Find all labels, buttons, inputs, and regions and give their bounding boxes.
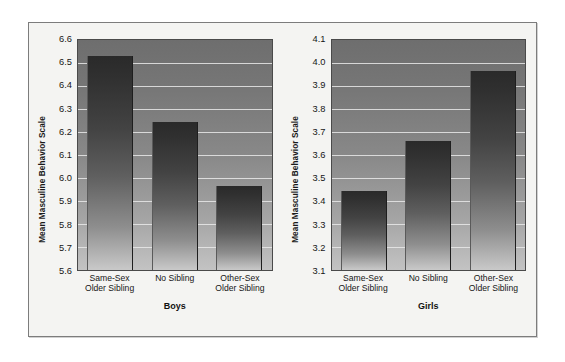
y-tick-label: 5.9 (59, 196, 72, 206)
x-category-label-line: Older Sibling (207, 283, 272, 293)
x-category-label-line: Other-Sex (461, 273, 526, 283)
x-axis-category-labels: Same-SexOlder SiblingNo SiblingOther-Sex… (331, 273, 527, 294)
panel-title-boys: Boys (77, 301, 273, 311)
y-tick-label: 3.4 (313, 196, 326, 206)
x-category-label-line: Older Sibling (77, 283, 142, 293)
bar[interactable] (216, 186, 262, 270)
y-tick-label: 5.8 (59, 220, 72, 230)
x-category-label: Same-SexOlder Sibling (331, 273, 396, 294)
y-tick-label: 3.5 (313, 173, 326, 183)
y-axis-title-label: Mean Masculine Behavior Scale (291, 116, 300, 243)
y-tick-label: 6.3 (59, 104, 72, 114)
y-tick-label: 6.5 (59, 57, 72, 67)
x-category-label-line: No Sibling (142, 273, 207, 283)
y-axis-tick-labels: 6.66.56.46.36.26.16.05.95.85.75.6 (47, 39, 75, 271)
y-axis-title-label: Mean Masculine Behavior Scale (38, 116, 47, 243)
x-category-label: Other-SexOlder Sibling (461, 273, 526, 294)
bar-slot (78, 40, 142, 270)
bar-group (78, 40, 272, 270)
y-tick-label: 4.1 (313, 34, 326, 44)
y-tick-label: 3.3 (313, 220, 326, 230)
y-tick-label: 6.4 (59, 80, 72, 90)
bar[interactable] (341, 191, 387, 270)
x-category-label-line: Older Sibling (461, 283, 526, 293)
panel-container: Mean Masculine Behavior Scale 6.66.56.46… (29, 23, 536, 336)
bar-group (332, 40, 526, 270)
y-tick-label: 3.7 (313, 127, 326, 137)
panel-title-girls: Girls (331, 301, 527, 311)
x-category-label: Same-SexOlder Sibling (77, 273, 142, 294)
bar[interactable] (87, 56, 133, 270)
y-tick-label: 6.0 (59, 173, 72, 183)
x-category-label: Other-SexOlder Sibling (207, 273, 272, 294)
bar[interactable] (470, 71, 516, 270)
x-category-label-line: Same-Sex (331, 273, 396, 283)
y-tick-label: 3.2 (313, 243, 326, 253)
x-axis-category-labels: Same-SexOlder SiblingNo SiblingOther-Sex… (77, 273, 273, 294)
plot-area (331, 39, 527, 271)
chart-panel-girls: Mean Masculine Behavior Scale 4.14.03.93… (283, 23, 537, 336)
x-category-label-line: Other-Sex (207, 273, 272, 283)
bar-slot (461, 40, 525, 270)
y-tick-label: 4.0 (313, 57, 326, 67)
y-tick-label: 5.6 (59, 266, 72, 276)
y-tick-label: 6.1 (59, 150, 72, 160)
chart-panel-boys: Mean Masculine Behavior Scale 6.66.56.46… (29, 23, 283, 336)
bar[interactable] (152, 122, 198, 270)
x-category-label: No Sibling (396, 273, 461, 294)
bar[interactable] (405, 141, 451, 270)
y-tick-label: 6.2 (59, 127, 72, 137)
bar-slot (143, 40, 207, 270)
x-category-label: No Sibling (142, 273, 207, 294)
bar-slot (207, 40, 271, 270)
y-axis-tick-labels: 4.14.03.93.83.73.63.53.43.33.23.1 (301, 39, 329, 271)
figure-frame: Mean Masculine Behavior Scale 6.66.56.46… (28, 22, 537, 337)
y-tick-label: 5.7 (59, 243, 72, 253)
y-tick-label: 3.9 (313, 80, 326, 90)
x-category-label-line: No Sibling (396, 273, 461, 283)
bar-slot (396, 40, 460, 270)
x-category-label-line: Older Sibling (331, 283, 396, 293)
plot-area (77, 39, 273, 271)
y-tick-label: 3.8 (313, 104, 326, 114)
x-category-label-line: Same-Sex (77, 273, 142, 283)
bar-slot (332, 40, 396, 270)
y-tick-label: 3.6 (313, 150, 326, 160)
y-tick-label: 6.6 (59, 34, 72, 44)
y-tick-label: 3.1 (313, 266, 326, 276)
